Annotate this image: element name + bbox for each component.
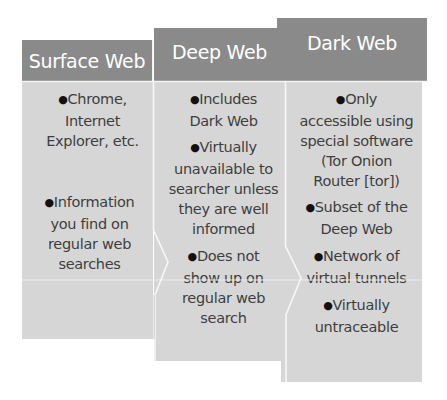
bullet-icon: ●: [336, 93, 345, 106]
surface-web-bullet-2: ●Information you find on regular web sea…: [32, 192, 147, 274]
bullet-icon: ●: [58, 93, 67, 106]
bullet-icon: ●: [188, 250, 197, 263]
dark-web-bullet-4: ●Virtually untraceable: [295, 295, 418, 337]
bullet-icon: ●: [314, 250, 323, 263]
surface-web-body: ●Chrome, Internet Explorer, etc. ●Inform…: [22, 82, 153, 339]
deep-web-header: Deep Web: [154, 28, 286, 81]
dark-web-header: Dark Web: [277, 18, 427, 81]
bullet-icon: ●: [305, 201, 314, 214]
surface-web-bullet-1: ●Chrome, Internet Explorer, etc.: [38, 89, 147, 151]
deep-web-bullet-3: ●Does not show up on regular web search: [166, 246, 281, 328]
dark-web-body: ●Only accessible using special software …: [281, 82, 422, 382]
deep-web-bullet-1: ●Includes Dark Web: [166, 89, 281, 131]
deep-web-body: ●Includes Dark Web ●Virtually unavailabl…: [154, 82, 285, 361]
dark-web-bullet-3: ●Network of virtual tunnels: [295, 246, 418, 288]
bullet-icon: ●: [45, 196, 54, 209]
dark-web-bullet-2: ●Subset of the Deep Web: [295, 197, 418, 239]
deep-web-title: Deep Web: [172, 41, 267, 63]
dark-web-bullet-1: ●Only accessible using special software …: [295, 89, 418, 191]
bullet-icon: ●: [323, 299, 332, 312]
bullet-icon: ●: [190, 93, 199, 106]
surface-web-title: Surface Web: [29, 50, 146, 72]
bullet-icon: ●: [190, 141, 199, 154]
deep-web-bullet-2: ●Virtually unavailable to searcher unles…: [166, 137, 281, 239]
surface-web-header: Surface Web: [22, 40, 153, 81]
dark-web-title: Dark Web: [307, 32, 397, 54]
